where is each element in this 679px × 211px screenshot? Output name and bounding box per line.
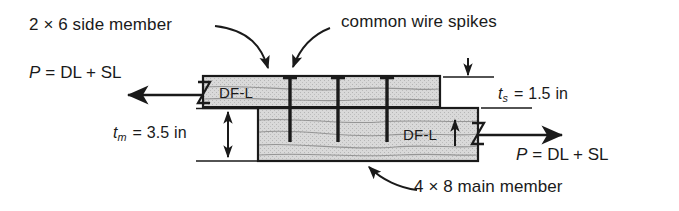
- left-load-equals: =: [45, 63, 55, 82]
- tm-dimension: [196, 109, 258, 162]
- right-load-label: P=DL + SL: [516, 146, 609, 163]
- ts-subscript: s: [502, 92, 507, 104]
- leader-spikes: [293, 28, 330, 67]
- ts-equals: =: [514, 85, 523, 102]
- callout-main-member-label: 4 × 8 main member: [414, 178, 563, 195]
- callout-spikes-label: common wire spikes: [341, 13, 497, 30]
- ts-value: 1.5: [528, 85, 550, 102]
- callout-side-member-label: 2 × 6 side member: [29, 16, 172, 33]
- right-load-expression: DL + SL: [547, 145, 608, 164]
- main-member-species-label: DF-L: [403, 127, 437, 142]
- leader-main-member: [369, 167, 417, 190]
- right-load-symbol: P: [516, 145, 527, 164]
- leader-side-member: [215, 26, 268, 68]
- tm-value: 3.5: [147, 124, 169, 141]
- left-load-symbol: P: [29, 63, 40, 82]
- tm-equals: =: [133, 124, 142, 141]
- left-load-expression: DL + SL: [60, 63, 121, 82]
- side-member-species-label: DF-L: [219, 85, 253, 100]
- technical-diagram-figure: 2 × 6 side member common wire spikes 4 ×…: [0, 0, 679, 211]
- ts-dimension-label: ts=1.5in: [498, 86, 568, 104]
- ts-unit: in: [555, 85, 567, 102]
- left-load-label: P=DL + SL: [29, 64, 122, 81]
- tm-dimension-label: tm=3.5in: [113, 125, 187, 143]
- right-load-equals: =: [532, 145, 542, 164]
- tm-unit: in: [174, 124, 186, 141]
- tm-subscript: m: [117, 131, 126, 143]
